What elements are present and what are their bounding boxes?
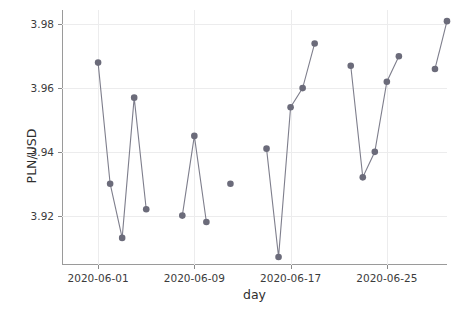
data-point-marker [311,40,318,47]
data-point-marker [372,149,379,156]
y-tick-label: 3.96 [31,82,54,94]
x-tick-mark [291,265,292,269]
data-point-marker [95,59,102,66]
x-tick-mark [387,265,388,269]
series-segment [267,43,315,257]
series-segment [351,56,399,177]
x-tick-label: 2020-06-09 [164,272,225,284]
data-point-marker [131,94,138,101]
data-point-marker [432,66,439,73]
data-point-marker [179,212,186,219]
x-tick-label: 2020-06-25 [356,272,417,284]
data-series-line [62,10,447,265]
x-tick-label: 2020-06-01 [68,272,129,284]
data-point-marker [191,133,198,140]
y-tick-label: 3.94 [31,146,54,158]
data-point-marker [275,254,282,261]
data-point-marker [227,180,234,187]
data-point-marker [287,104,294,111]
data-point-marker [359,174,366,181]
data-point-marker [347,62,354,69]
data-point-marker [203,219,210,226]
chart-figure: PLN/USD day 3.923.943.963.98 2020-06-012… [0,0,457,311]
x-tick-mark [194,265,195,269]
x-tick-mark [98,265,99,269]
series-segment [98,63,146,238]
plot-area: 3.923.943.963.98 2020-06-012020-06-09202… [62,10,447,265]
y-tick-label: 3.92 [31,210,54,222]
data-point-marker [263,145,270,152]
data-point-marker [143,206,150,213]
x-axis-title: day [62,287,447,302]
data-point-marker [444,18,451,25]
data-point-marker [384,78,391,85]
y-tick-label: 3.98 [31,18,54,30]
data-point-marker [299,85,306,92]
data-point-marker [119,235,126,242]
data-point-marker [107,180,114,187]
series-segment [182,136,206,222]
x-tick-label: 2020-06-17 [260,272,321,284]
series-segment [435,21,447,69]
data-point-marker [396,53,403,60]
